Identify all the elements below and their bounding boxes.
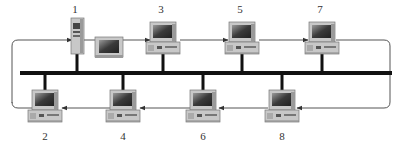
node-label: 4 — [120, 130, 126, 142]
ring-segment-2-left — [12, 102, 32, 108]
node-6[interactable]: 6 — [186, 74, 220, 142]
bus-drop — [162, 52, 165, 72]
node-label: 2 — [42, 130, 48, 142]
screen — [193, 93, 212, 106]
node-7[interactable]: 7 — [305, 3, 339, 72]
node-4[interactable]: 4 — [106, 74, 140, 142]
bus-drop — [44, 74, 47, 90]
node-label: 5 — [237, 3, 243, 15]
bus-drop — [321, 52, 324, 72]
node-label: 7 — [317, 3, 323, 15]
bus-drop — [122, 74, 125, 90]
node-8[interactable]: 8 — [265, 74, 299, 142]
node-1-monitor[interactable] — [95, 37, 123, 58]
screen — [312, 25, 331, 38]
node-3[interactable]: 3 — [146, 3, 180, 72]
node-label: 8 — [279, 130, 285, 142]
bus-drop — [76, 52, 79, 72]
node-5[interactable]: 5 — [225, 3, 259, 72]
node-label: 3 — [158, 3, 164, 15]
bus-drop — [281, 74, 284, 90]
screen — [272, 93, 291, 106]
bus-drop — [241, 52, 244, 72]
node-label: 1 — [72, 3, 78, 15]
screen — [153, 25, 172, 38]
node-2[interactable]: 2 — [28, 74, 62, 142]
node-1[interactable]: 1 — [71, 3, 84, 72]
screen — [35, 93, 54, 106]
network-diagram: 13572468 — [0, 0, 396, 150]
bus-drop — [202, 74, 205, 90]
screen — [113, 93, 132, 106]
node-label: 6 — [200, 130, 206, 142]
screen — [232, 25, 251, 38]
